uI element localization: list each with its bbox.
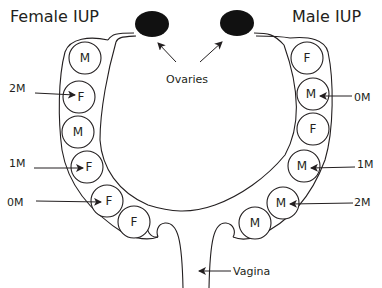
male-iup-title: Male IUP <box>292 7 361 26</box>
fetus-sex-label: M <box>276 196 286 210</box>
fetus-sex-label: M <box>250 216 260 230</box>
annotation-right-1m: 1M <box>357 158 374 171</box>
fetus-sex-label: M <box>297 159 307 173</box>
annotation-left-0m: 0M <box>7 196 24 209</box>
fetus-sex-label: F <box>310 122 317 136</box>
fetus-sex-label: M <box>306 87 316 101</box>
ovary-right <box>220 10 254 36</box>
fetus-right-1: F <box>291 42 323 74</box>
female-iup-title: Female IUP <box>10 7 99 26</box>
annotation-right-2m: 2M <box>354 196 371 209</box>
right-horn-fetuses: F M F M M M <box>239 42 329 239</box>
fetus-sex-label: F <box>106 194 113 208</box>
fetus-left-2: F <box>63 81 95 113</box>
fetus-sex-label: M <box>73 125 83 139</box>
fetus-left-6: F <box>118 206 150 238</box>
fetus-right-4: M <box>288 150 320 182</box>
fetus-left-4: F <box>71 151 103 183</box>
ovary-left <box>135 11 169 37</box>
annotation-left-1m: 1M <box>9 157 26 170</box>
fetus-right-3: F <box>297 113 329 145</box>
ovaries-arrow-right <box>200 42 222 62</box>
fetus-sex-label: F <box>131 215 138 229</box>
left-horn-fetuses: M F M F F F <box>62 42 150 238</box>
fetus-sex-label: F <box>86 160 93 174</box>
annotation-left-2m: 2M <box>9 82 26 95</box>
fetus-sex-label: F <box>304 51 311 65</box>
fetus-right-2: M <box>297 78 329 110</box>
vagina-label: Vagina <box>233 265 270 278</box>
fetus-right-5: M <box>267 187 299 219</box>
fetus-sex-label: F <box>78 90 85 104</box>
uterus-diagram: Female IUP Male IUP M F <box>0 0 382 288</box>
annotation-right-0m: 0M <box>354 91 371 104</box>
ovaries-label: Ovaries <box>166 73 208 86</box>
fetus-left-3: M <box>62 116 94 148</box>
ovaries-arrow-left <box>158 43 176 62</box>
fetus-left-5: F <box>91 185 123 217</box>
fetus-left-1: M <box>69 42 101 74</box>
fetus-right-6: M <box>239 207 271 239</box>
fetus-sex-label: M <box>80 51 90 65</box>
